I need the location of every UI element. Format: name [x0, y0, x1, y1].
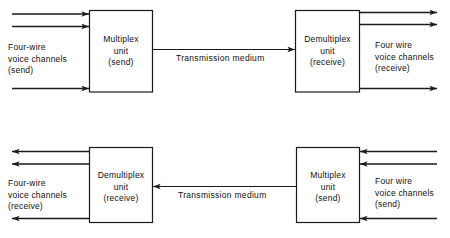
top-right-box-label-line1: Demultiplex [293, 34, 362, 46]
bottom-left-group-label: Four-wire voice channels (receive) [8, 178, 67, 213]
bottom-right-group-label: Four wire voice channels (send) [375, 176, 434, 211]
top-left-group-label-line1: Four-wire [8, 42, 67, 54]
bottom-left-group-label-line3: (receive) [8, 201, 67, 213]
bottom-left-box-label-line3: (receive) [86, 193, 156, 205]
top-right-group-label-line3: (receive) [375, 63, 434, 75]
top-right-box-label: Demultiplex unit (receive) [293, 34, 362, 69]
bottom-right-box-label-line1: Multiplex [296, 170, 360, 182]
top-right-box-label-line2: unit [293, 46, 362, 58]
top-left-group-label-line3: (send) [8, 65, 67, 77]
bottom-right-box-label-line3: (send) [296, 193, 360, 205]
top-left-box-label-line3: (send) [89, 57, 153, 69]
bottom-right-group-label-line2: voice channels [375, 188, 434, 200]
bottom-left-group-label-line1: Four-wire [8, 178, 67, 190]
bottom-right-box-label: Multiplex unit (send) [296, 170, 360, 205]
bottom-left-box-label-line2: unit [86, 182, 156, 194]
bottom-left-group-label-line2: voice channels [8, 190, 67, 202]
bottom-right-group-label-line3: (send) [375, 199, 434, 211]
top-left-group-label: Four-wire voice channels (send) [8, 42, 67, 77]
diagram-canvas: Four-wire voice channels (send) Multiple… [0, 0, 450, 238]
top-right-box-label-line3: (receive) [293, 57, 362, 69]
bottom-transmission-medium-label: Transmission medium [178, 190, 267, 200]
bottom-right-box-label-line2: unit [296, 182, 360, 194]
top-left-box-label-line2: unit [89, 46, 153, 58]
top-right-group-label-line1: Four wire [375, 40, 434, 52]
top-left-box-label-line1: Multiplex [89, 34, 153, 46]
top-left-group-label-line2: voice channels [8, 54, 67, 66]
top-right-group-label-line2: voice channels [375, 52, 434, 64]
bottom-left-box-label-line1: Demultiplex [86, 170, 156, 182]
top-left-box-label: Multiplex unit (send) [89, 34, 153, 69]
top-transmission-medium-label: Transmission medium [176, 53, 265, 63]
top-right-group-label: Four wire voice channels (receive) [375, 40, 434, 75]
bottom-left-box-label: Demultiplex unit (receive) [86, 170, 156, 205]
bottom-right-group-label-line1: Four wire [375, 176, 434, 188]
